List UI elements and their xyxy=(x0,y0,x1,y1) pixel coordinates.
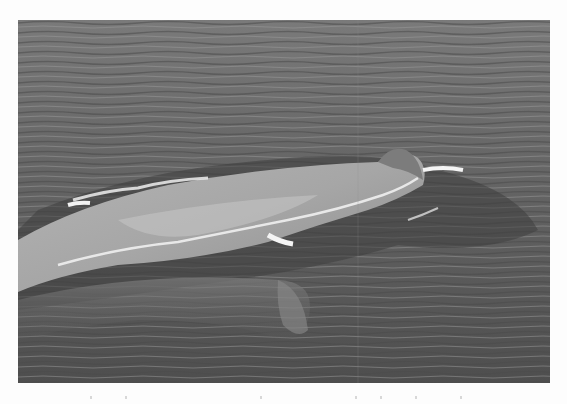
mark xyxy=(125,396,127,399)
page xyxy=(0,0,567,404)
mark xyxy=(355,396,357,399)
mark xyxy=(90,396,92,399)
mark xyxy=(260,396,262,399)
whale-photo xyxy=(18,20,550,383)
mark xyxy=(415,396,417,399)
mark xyxy=(380,396,382,399)
mark xyxy=(460,396,462,399)
foam-left xyxy=(68,203,90,205)
show-through-marks xyxy=(80,396,480,400)
foam-head xyxy=(423,168,463,170)
whale-photo-illustration xyxy=(18,20,550,383)
